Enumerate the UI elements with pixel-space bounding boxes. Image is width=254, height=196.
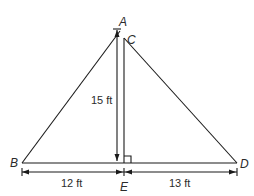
base-dimension <box>22 168 237 176</box>
point-label-A: A <box>118 15 127 29</box>
arrow-right-icon <box>116 170 123 175</box>
arrow-right-icon <box>229 170 236 175</box>
right-base-label: 13 ft <box>169 177 190 189</box>
segment-CD <box>124 38 237 163</box>
point-label-D: D <box>240 157 249 171</box>
height-dimension <box>113 29 121 161</box>
geometry-diagram: A C B D E 15 ft 12 ft 13 ft <box>0 0 254 196</box>
point-label-E: E <box>120 180 129 194</box>
point-label-C: C <box>127 33 136 47</box>
point-label-B: B <box>10 156 18 170</box>
left-base-label: 12 ft <box>61 177 82 189</box>
arrow-left-icon <box>125 170 132 175</box>
arrow-down-icon <box>115 154 120 161</box>
arrow-left-icon <box>22 170 29 175</box>
height-label: 15 ft <box>91 94 112 106</box>
right-angle-marker <box>124 156 131 163</box>
